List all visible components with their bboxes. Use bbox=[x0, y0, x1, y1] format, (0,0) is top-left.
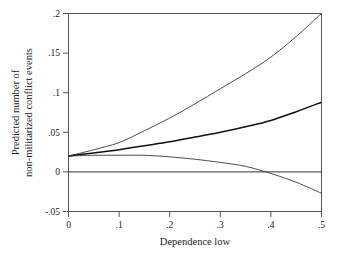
y-axis-title-line1: Predicted number of bbox=[10, 69, 21, 155]
x-axis-ticks bbox=[69, 212, 322, 218]
plot-frame bbox=[69, 14, 322, 212]
y-tick-label: .05 bbox=[48, 128, 60, 138]
y-tick-label: .1 bbox=[53, 88, 60, 98]
x-tick-label: .4 bbox=[267, 220, 274, 230]
curve-lower-confidence-bound bbox=[69, 155, 322, 193]
y-axis-ticks bbox=[63, 14, 69, 212]
x-tick-label: .2 bbox=[166, 220, 173, 230]
data-curves bbox=[69, 14, 322, 194]
y-tick-label: .2 bbox=[53, 9, 60, 19]
chart-canvas: .2 .15 .1 .05 0 -.05 0 .1 .2 .3 .4 .5 De… bbox=[0, 0, 341, 263]
y-axis-title-line2: non-militarized conflict events bbox=[23, 48, 34, 177]
x-tick-label: 0 bbox=[66, 220, 71, 230]
x-tick-label: .1 bbox=[116, 220, 123, 230]
y-tick-label: -.05 bbox=[45, 207, 60, 217]
y-tick-label: .15 bbox=[48, 48, 60, 58]
x-axis-title: Dependence low bbox=[160, 236, 231, 247]
curve-upper-confidence-bound bbox=[69, 14, 322, 157]
curve-predicted-mean bbox=[69, 102, 322, 156]
chart-figure: .2 .15 .1 .05 0 -.05 0 .1 .2 .3 .4 .5 De… bbox=[0, 0, 341, 263]
x-tick-label: .3 bbox=[217, 220, 224, 230]
y-tick-label: 0 bbox=[55, 167, 60, 177]
x-tick-label: .5 bbox=[318, 220, 325, 230]
